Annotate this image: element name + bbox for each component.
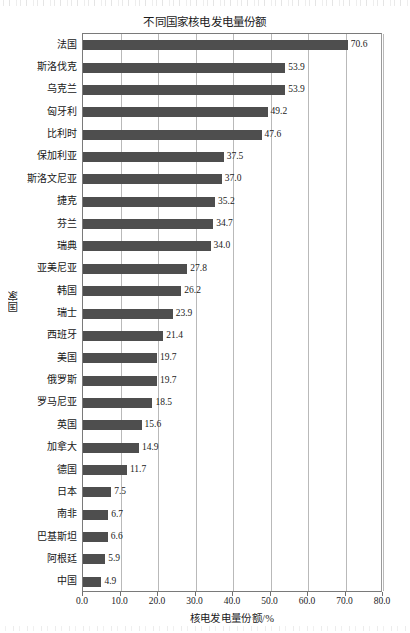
bar-row: 14.9 bbox=[83, 443, 381, 453]
scan-artifact-top bbox=[0, 0, 410, 6]
bar-value-label: 35.2 bbox=[218, 194, 235, 209]
bar bbox=[83, 309, 173, 319]
bar-series: 70.653.953.949.247.637.537.035.234.734.0… bbox=[83, 34, 381, 591]
y-axis-label-19: 德国 bbox=[0, 463, 77, 476]
bar-row: 18.5 bbox=[83, 398, 381, 408]
bar-row: 5.9 bbox=[83, 554, 381, 564]
chart-title: 不同国家核电发电量份额 bbox=[0, 15, 410, 29]
bar-row: 21.4 bbox=[83, 331, 381, 341]
y-axis-label-7: 捷克 bbox=[0, 194, 77, 207]
y-axis-label-9: 瑞典 bbox=[0, 239, 77, 252]
bar-row: 4.9 bbox=[83, 577, 381, 587]
bar bbox=[83, 286, 181, 296]
y-axis-label-0: 法国 bbox=[0, 38, 77, 51]
bar bbox=[83, 510, 108, 520]
bar-value-label: 11.7 bbox=[130, 462, 146, 477]
bar-row: 37.5 bbox=[83, 152, 381, 162]
y-axis-label-17: 英国 bbox=[0, 418, 77, 431]
bar-value-label: 37.0 bbox=[225, 171, 242, 186]
y-axis-label-13: 西班牙 bbox=[0, 328, 77, 341]
bar-value-label: 18.5 bbox=[155, 395, 172, 410]
y-axis-label-22: 巴基斯坦 bbox=[0, 530, 77, 543]
bar bbox=[83, 465, 127, 475]
bar-row: 11.7 bbox=[83, 465, 381, 475]
bar-row: 7.5 bbox=[83, 487, 381, 497]
y-axis-label-1: 斯洛伐克 bbox=[0, 60, 77, 73]
bar-row: 19.7 bbox=[83, 376, 381, 386]
bar-value-label: 34.7 bbox=[216, 216, 233, 231]
bar-value-label: 4.9 bbox=[104, 574, 116, 589]
y-axis-label-11: 韩国 bbox=[0, 284, 77, 297]
x-axis-label-80.0: 80.0 bbox=[360, 595, 404, 608]
bar bbox=[83, 197, 215, 207]
bar bbox=[83, 63, 285, 73]
bar bbox=[83, 107, 268, 117]
bar-value-label: 15.6 bbox=[145, 417, 162, 432]
bar-row: 53.9 bbox=[83, 63, 381, 73]
bar-row: 37.0 bbox=[83, 174, 381, 184]
bar bbox=[83, 264, 187, 274]
y-axis-label-2: 乌克兰 bbox=[0, 82, 77, 95]
bar-value-label: 47.6 bbox=[265, 127, 282, 142]
bar bbox=[83, 40, 348, 50]
bar-row: 49.2 bbox=[83, 107, 381, 117]
y-axis-label-10: 亚美尼亚 bbox=[0, 261, 77, 274]
bar bbox=[83, 554, 105, 564]
bar-value-label: 53.9 bbox=[288, 82, 305, 97]
bar-value-label: 6.7 bbox=[111, 507, 123, 522]
bar-row: 34.0 bbox=[83, 241, 381, 251]
bar bbox=[83, 152, 224, 162]
x-axis-title: 核电发电量份额/% bbox=[82, 612, 382, 626]
y-axis-label-14: 美国 bbox=[0, 351, 77, 364]
y-axis-label-15: 俄罗斯 bbox=[0, 373, 77, 386]
bar bbox=[83, 331, 163, 341]
y-axis-label-16: 罗马尼亚 bbox=[0, 395, 77, 408]
bar-value-label: 26.2 bbox=[184, 283, 201, 298]
bar-value-label: 14.9 bbox=[142, 440, 159, 455]
y-axis-label-21: 南非 bbox=[0, 507, 77, 520]
bar-row: 23.9 bbox=[83, 309, 381, 319]
y-axis-label-23: 阿根廷 bbox=[0, 552, 77, 565]
bar-row: 53.9 bbox=[83, 85, 381, 95]
bar-value-label: 6.6 bbox=[111, 529, 123, 544]
bar-row: 70.6 bbox=[83, 40, 381, 50]
bar bbox=[83, 376, 157, 386]
bar bbox=[83, 532, 108, 542]
plot-area: 70.653.953.949.247.637.537.035.234.734.0… bbox=[82, 33, 382, 592]
bar-row: 19.7 bbox=[83, 353, 381, 363]
bar-value-label: 5.9 bbox=[108, 551, 120, 566]
bar bbox=[83, 241, 211, 251]
y-axis-label-20: 日本 bbox=[0, 485, 77, 498]
bar-value-label: 70.6 bbox=[351, 37, 368, 52]
bar bbox=[83, 398, 152, 408]
bar-row: 47.6 bbox=[83, 130, 381, 140]
bar bbox=[83, 219, 213, 229]
x-axis-tick-labels: 0.010.020.030.040.050.060.070.080.0 bbox=[0, 595, 410, 611]
bar-value-label: 19.7 bbox=[160, 350, 177, 365]
bar-row: 35.2 bbox=[83, 197, 381, 207]
bar bbox=[83, 85, 285, 95]
bar-value-label: 21.4 bbox=[166, 328, 183, 343]
bar-value-label: 49.2 bbox=[271, 104, 288, 119]
bar-row: 26.2 bbox=[83, 286, 381, 296]
bar-value-label: 7.5 bbox=[114, 484, 126, 499]
y-axis-tick-labels: 法国斯洛伐克乌克兰匈牙利比利时保加利亚斯洛文尼亚捷克芬兰瑞典亚美尼亚韩国瑞士西班… bbox=[0, 33, 80, 592]
y-axis-label-3: 匈牙利 bbox=[0, 105, 77, 118]
bar-value-label: 23.9 bbox=[176, 306, 193, 321]
bar bbox=[83, 353, 157, 363]
bar bbox=[83, 174, 222, 184]
bar-value-label: 37.5 bbox=[227, 149, 244, 164]
bar-value-label: 34.0 bbox=[214, 238, 231, 253]
bar bbox=[83, 443, 139, 453]
bar-row: 15.6 bbox=[83, 420, 381, 430]
y-axis-label-24: 中国 bbox=[0, 574, 77, 587]
y-axis-label-12: 瑞士 bbox=[0, 306, 77, 319]
bar-value-label: 27.8 bbox=[190, 261, 207, 276]
y-axis-label-8: 芬兰 bbox=[0, 217, 77, 230]
bar-row: 27.8 bbox=[83, 264, 381, 274]
chart-figure: 不同国家核电发电量份额 国家 法国斯洛伐克乌克兰匈牙利比利时保加利亚斯洛文尼亚捷… bbox=[0, 0, 410, 633]
bar bbox=[83, 130, 262, 140]
scan-artifact-bottom bbox=[0, 626, 410, 631]
bar bbox=[83, 577, 101, 587]
bar bbox=[83, 487, 111, 497]
